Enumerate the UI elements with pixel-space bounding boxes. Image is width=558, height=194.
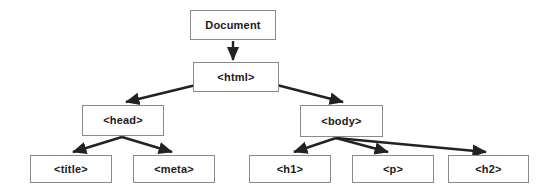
edge-html-head [126, 85, 196, 102]
node-document[interactable]: Document [190, 10, 276, 40]
node-h2-label: <h2> [475, 164, 502, 175]
node-head[interactable]: <head> [82, 105, 164, 136]
node-h2[interactable]: <h2> [448, 155, 529, 183]
node-body-label: <body> [321, 116, 361, 127]
edge-html-body [277, 85, 343, 102]
node-p-label: <p> [383, 164, 403, 175]
edge-head-title [73, 137, 122, 152]
node-meta-label: <meta> [154, 164, 194, 175]
node-body[interactable]: <body> [300, 105, 383, 137]
node-html[interactable]: <html> [193, 62, 279, 92]
node-title[interactable]: <title> [30, 155, 112, 183]
node-html-label: <html> [217, 72, 254, 83]
node-h1[interactable]: <h1> [249, 155, 331, 183]
node-meta[interactable]: <meta> [133, 155, 215, 183]
edge-body-h1 [294, 138, 336, 152]
node-head-label: <head> [103, 115, 143, 126]
node-h1-label: <h1> [277, 164, 304, 175]
edge-body-h2 [336, 138, 486, 152]
node-title-label: <title> [54, 164, 88, 175]
edge-body-p [336, 138, 388, 152]
node-document-label: Document [205, 20, 260, 31]
node-p[interactable]: <p> [352, 155, 434, 183]
dom-tree-diagram: Document <html> <head> <body> <title> <m… [0, 0, 558, 194]
edge-head-meta [122, 137, 172, 152]
